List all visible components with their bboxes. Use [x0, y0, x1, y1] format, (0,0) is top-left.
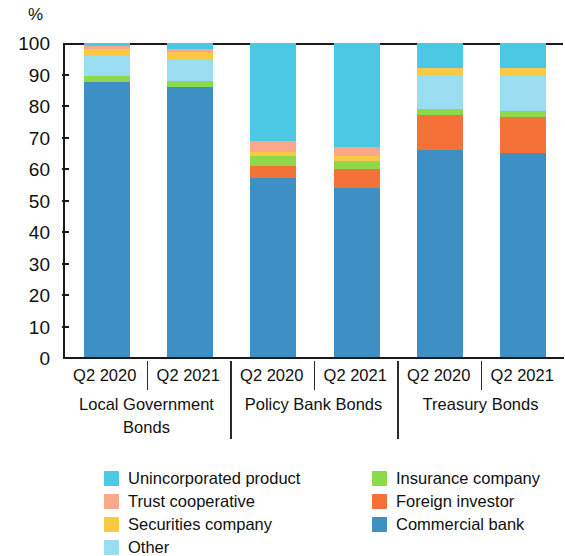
bar-segment[interactable] [250, 156, 296, 165]
bar-segment[interactable] [167, 52, 213, 60]
legend-swatch [104, 471, 119, 486]
y-axis-tick-label: 10 [29, 317, 50, 336]
x-axis-period-label: Q2 2021 [147, 359, 231, 391]
bar-segment[interactable] [167, 60, 213, 80]
bar-segment[interactable] [417, 109, 463, 115]
bar-slot [65, 43, 148, 358]
legend-item[interactable]: Commercial bank [372, 516, 524, 533]
legend-label: Commercial bank [396, 516, 524, 533]
bar-segment[interactable] [500, 117, 546, 153]
bar-segment[interactable] [250, 152, 296, 157]
y-axis-tick-label: 0 [39, 349, 50, 368]
legend-item[interactable]: Unincorporated product [104, 470, 300, 487]
stacked-bar-chart: % 1009080706050403020100 Q2 2020Q2 2021L… [0, 0, 565, 556]
bar-segment[interactable] [334, 169, 380, 188]
legend-item[interactable]: Trust cooperative [104, 493, 255, 510]
legend-swatch [372, 471, 387, 486]
bar-segment[interactable] [167, 87, 213, 358]
chart-legend: Unincorporated productInsurance companyT… [104, 470, 554, 556]
y-axis-tick-label: 20 [29, 286, 50, 305]
bar-slot [398, 43, 481, 358]
bar-segment[interactable] [500, 76, 546, 111]
bar-segment[interactable] [84, 46, 130, 49]
bar-segment[interactable] [250, 43, 296, 141]
bar-segment[interactable] [417, 75, 463, 110]
stacked-bar[interactable] [334, 43, 380, 358]
bar-slot [148, 43, 231, 358]
bar-segment[interactable] [417, 43, 463, 68]
bar-segment[interactable] [167, 49, 213, 52]
bar-segment[interactable] [167, 81, 213, 87]
bar-segment[interactable] [167, 43, 213, 49]
legend-item[interactable]: Insurance company [372, 470, 540, 487]
stacked-bar[interactable] [84, 43, 130, 358]
y-axis-tick-label: 90 [29, 65, 50, 84]
y-axis-tick-label: 60 [29, 160, 50, 179]
x-axis-period-label: Q2 2021 [314, 359, 398, 391]
legend-swatch [372, 517, 387, 532]
bar-segment[interactable] [334, 147, 380, 156]
legend-swatch [104, 517, 119, 532]
bar-segment[interactable] [334, 43, 380, 147]
bar-segment[interactable] [500, 153, 546, 358]
y-axis-tick-label: 30 [29, 254, 50, 273]
x-axis-period-label: Q2 2020 [63, 359, 147, 391]
bar-segment[interactable] [84, 82, 130, 358]
legend-swatch [104, 540, 119, 555]
y-axis-tick-label: 50 [29, 191, 50, 210]
bar-segment[interactable] [500, 111, 546, 117]
bar-slot [315, 43, 398, 358]
bar-segment[interactable] [250, 178, 296, 358]
stacked-bar[interactable] [250, 43, 296, 358]
bar-segment[interactable] [417, 150, 463, 358]
bar-segment[interactable] [250, 166, 296, 179]
plot-area [63, 43, 563, 358]
legend-label: Trust cooperative [128, 493, 255, 510]
bar-segment[interactable] [334, 161, 380, 169]
x-axis-group-label: Local Government Bonds [63, 393, 230, 439]
y-axis-tick-label: 70 [29, 128, 50, 147]
stacked-bar[interactable] [417, 43, 463, 358]
x-axis-period-label: Q2 2021 [481, 359, 565, 391]
bar-segment[interactable] [500, 68, 546, 76]
bar-segment[interactable] [84, 49, 130, 55]
x-axis-group-label: Treasury Bonds [397, 393, 564, 416]
legend-label: Insurance company [396, 470, 540, 487]
legend-swatch [104, 494, 119, 509]
legend-label: Foreign investor [396, 493, 514, 510]
bar-segment[interactable] [417, 68, 463, 74]
x-axis-labels: Q2 2020Q2 2021Local Government BondsQ2 2… [63, 359, 564, 459]
x-axis-period-label: Q2 2020 [397, 359, 481, 391]
bar-slot [232, 43, 315, 358]
legend-label: Other [128, 539, 169, 556]
bar-segment[interactable] [417, 115, 463, 150]
stacked-bar[interactable] [500, 43, 546, 358]
legend-item[interactable]: Foreign investor [372, 493, 514, 510]
bar-segment[interactable] [84, 76, 130, 82]
bar-segment[interactable] [334, 156, 380, 161]
legend-swatch [372, 494, 387, 509]
bar-segment[interactable] [84, 43, 130, 46]
legend-item[interactable]: Securities company [104, 516, 272, 533]
stacked-bar[interactable] [167, 43, 213, 358]
y-axis-tick-label: 80 [29, 97, 50, 116]
bar-segment[interactable] [84, 56, 130, 76]
bar-segment[interactable] [500, 43, 546, 68]
x-axis-group-label: Policy Bank Bonds [230, 393, 397, 416]
bar-segment[interactable] [250, 141, 296, 152]
bar-segment[interactable] [334, 188, 380, 358]
y-axis-tick-label: 40 [29, 223, 50, 242]
bar-slot [482, 43, 565, 358]
legend-label: Securities company [128, 516, 272, 533]
x-axis-period-label: Q2 2020 [230, 359, 314, 391]
legend-label: Unincorporated product [128, 470, 300, 487]
legend-item[interactable]: Other [104, 539, 169, 556]
y-axis-tick-label: 100 [18, 34, 50, 53]
y-axis: 1009080706050403020100 [0, 0, 64, 400]
